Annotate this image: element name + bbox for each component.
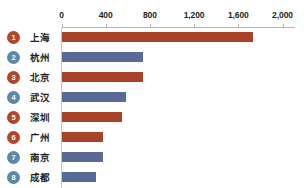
x-axis-tick-mark bbox=[150, 24, 151, 27]
x-axis-tick-mark bbox=[283, 24, 284, 27]
plot-area: 1上海2杭州3北京4武汉5深圳6广州7南京8成都 bbox=[0, 28, 304, 188]
x-axis-tick-mark bbox=[62, 24, 63, 27]
value-bar bbox=[62, 72, 144, 82]
x-axis-tick-label: 400 bbox=[99, 10, 113, 20]
rank-badge: 4 bbox=[7, 91, 20, 104]
rank-badge: 5 bbox=[7, 111, 20, 124]
bar-row: 4武汉 bbox=[0, 88, 304, 108]
category-label: 杭州 bbox=[30, 50, 60, 65]
bar-row: 7南京 bbox=[0, 148, 304, 168]
bar-row: 2杭州 bbox=[0, 48, 304, 68]
x-axis-tick-labels: 04008001,2001,6002,000 bbox=[0, 10, 304, 24]
category-label: 上海 bbox=[30, 30, 60, 45]
rank-badge: 3 bbox=[7, 71, 20, 84]
category-label: 广州 bbox=[30, 130, 60, 145]
value-bar bbox=[62, 172, 97, 182]
value-bar bbox=[62, 52, 144, 62]
x-axis-tick-label: 1,600 bbox=[228, 10, 249, 20]
x-axis-tick-mark bbox=[238, 24, 239, 27]
bar-row: 6广州 bbox=[0, 128, 304, 148]
value-bar bbox=[62, 112, 123, 122]
bar-row: 3北京 bbox=[0, 68, 304, 88]
x-axis-tick-mark bbox=[194, 24, 195, 27]
value-bar bbox=[62, 152, 104, 162]
category-label: 南京 bbox=[30, 150, 60, 165]
bar-row: 5深圳 bbox=[0, 108, 304, 128]
horizontal-bar-chart: 04008001,2001,6002,000 1上海2杭州3北京4武汉5深圳6广… bbox=[0, 0, 304, 188]
x-axis-tick-label: 800 bbox=[143, 10, 157, 20]
bar-row: 1上海 bbox=[0, 28, 304, 48]
value-bar bbox=[62, 92, 126, 102]
rank-badge: 1 bbox=[7, 31, 20, 44]
rank-badge: 6 bbox=[7, 131, 20, 144]
bar-row: 8成都 bbox=[0, 168, 304, 188]
category-label: 武汉 bbox=[30, 90, 60, 105]
rank-badge: 7 bbox=[7, 151, 20, 164]
category-label: 成都 bbox=[30, 170, 60, 185]
x-axis-tick-label: 1,200 bbox=[184, 10, 205, 20]
x-axis-tick-label: 2,000 bbox=[272, 10, 293, 20]
x-axis-tick-label: 0 bbox=[59, 10, 64, 20]
value-bar bbox=[62, 32, 253, 42]
category-label: 北京 bbox=[30, 70, 60, 85]
category-label: 深圳 bbox=[30, 110, 60, 125]
x-axis-tick-mark bbox=[106, 24, 107, 27]
rank-badge: 2 bbox=[7, 51, 20, 64]
rank-badge: 8 bbox=[7, 171, 20, 184]
value-bar bbox=[62, 132, 104, 142]
